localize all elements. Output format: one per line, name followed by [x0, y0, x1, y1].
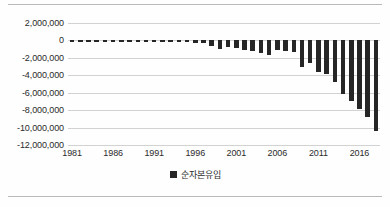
bar [144, 40, 149, 41]
bar [316, 40, 321, 71]
gridline [68, 23, 380, 24]
y-axis-tick-label: -6,000,000 [0, 88, 64, 98]
bar [177, 40, 182, 42]
bar [201, 40, 206, 43]
legend-swatch-icon [170, 171, 177, 178]
y-axis-tick-label: -4,000,000 [0, 70, 64, 80]
bar [160, 40, 165, 41]
gridline [68, 128, 380, 129]
bar [308, 40, 313, 63]
bar [70, 40, 75, 41]
plot-area [68, 23, 380, 145]
x-axis-tick-label: 2011 [309, 148, 328, 158]
bar [127, 40, 132, 41]
bar [283, 40, 288, 50]
bottom-divider [8, 196, 382, 197]
bar [119, 40, 124, 41]
bar [94, 40, 99, 41]
bar [234, 40, 239, 48]
bar [374, 40, 379, 131]
bar [168, 40, 173, 42]
bar [349, 40, 354, 100]
y-axis-tick-label: -8,000,000 [0, 105, 64, 115]
bar [136, 40, 141, 41]
legend-label: 순자본유입 [181, 168, 221, 181]
x-axis-tick-label: 1981 [62, 148, 82, 158]
bar [275, 40, 280, 50]
bar [333, 40, 338, 82]
x-axis-tick-label: 2006 [268, 148, 288, 158]
bar [209, 40, 214, 45]
bar [357, 40, 362, 109]
x-axis-tick-label: 1991 [144, 148, 164, 158]
bar [341, 40, 346, 94]
y-axis-tick-label: -12,000,000 [0, 140, 64, 150]
bar [259, 40, 264, 53]
x-axis-tick-label: 2001 [227, 148, 247, 158]
bar [292, 40, 297, 52]
y-axis-tick-label: -2,000,000 [0, 53, 64, 63]
y-axis-tick-label: 0 [0, 35, 64, 45]
bar [86, 40, 91, 42]
y-axis-tick-label: -10,000,000 [0, 123, 64, 133]
bar [267, 40, 272, 55]
bar [193, 40, 198, 42]
gridline [68, 145, 380, 146]
bar [103, 40, 108, 41]
bar [324, 40, 329, 74]
bar [78, 40, 83, 41]
bar [152, 40, 157, 41]
bar [242, 40, 247, 49]
bar [185, 40, 190, 42]
x-axis-tick-label: 2016 [350, 148, 370, 158]
bar [365, 40, 370, 117]
bar [226, 40, 231, 47]
chart-figure: 2,000,0000-2,000,000-4,000,000-6,000,000… [0, 0, 390, 207]
bar [218, 40, 223, 49]
x-axis-tick-label: 1986 [103, 148, 123, 158]
top-divider [8, 4, 382, 5]
x-axis-tick-label: 1996 [185, 148, 205, 158]
bar [300, 40, 305, 66]
chart-legend: 순자본유입 [0, 168, 390, 181]
bar [250, 40, 255, 51]
gridline [68, 93, 380, 94]
y-axis-tick-label: 2,000,000 [0, 18, 64, 28]
gridline [68, 110, 380, 111]
bar [111, 40, 116, 42]
bar-chart: 2,000,0000-2,000,000-4,000,000-6,000,000… [0, 10, 390, 170]
